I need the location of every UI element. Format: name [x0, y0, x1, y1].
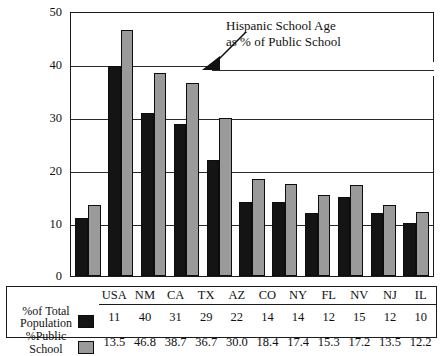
bar-nj-series1 [371, 213, 384, 276]
bar-nm-series1 [108, 66, 121, 276]
table-header-ny: NY [283, 287, 314, 305]
legend-swatch-public-school [78, 341, 94, 354]
y-tick-30: 30 [28, 112, 62, 124]
cell-total-population-nj: 12 [375, 305, 406, 331]
bar-ca-series2 [154, 73, 167, 276]
bar-group-ny [268, 14, 301, 276]
y-tick-20: 20 [28, 165, 62, 177]
table-header-fl: FL [313, 287, 344, 305]
table-header-nm: NM [130, 287, 161, 305]
y-tick-10: 10 [28, 218, 62, 230]
table-row-total-population: %of TotalPopulation 11403129221414121512… [7, 305, 436, 331]
cell-total-population-co: 14 [252, 305, 283, 331]
cell-total-population-ny: 14 [283, 305, 314, 331]
bar-fl-series1 [305, 213, 318, 276]
bar-nv-series2 [350, 185, 363, 275]
y-tick-40: 40 [28, 59, 62, 71]
bar-fl-series2 [318, 195, 331, 275]
cell-public-school-nm: 46.8 [130, 330, 161, 356]
table-header-nv: NV [344, 287, 375, 305]
bar-group-nm [104, 14, 137, 276]
bar-nj-series2 [383, 205, 396, 276]
bar-tx-series2 [186, 83, 199, 275]
table-header-nj: NJ [375, 287, 406, 305]
cell-total-population-usa: 11 [99, 305, 130, 331]
y-tick-50: 50 [28, 6, 62, 18]
bar-group-nv [334, 14, 367, 276]
legend-swatch-total-population [78, 315, 94, 328]
bar-ca-series1 [141, 113, 154, 275]
values-table: USANMCATXAZCONYFLNVNJIL %of TotalPopulat… [7, 287, 436, 356]
cell-public-school-fl: 15.3 [313, 330, 344, 356]
cell-total-population-il: 10 [405, 305, 436, 331]
bar-group-nj [367, 14, 400, 276]
bar-usa-series2 [88, 205, 101, 276]
cell-public-school-tx: 36.7 [191, 330, 222, 356]
data-legend-table: USANMCATXAZCONYFLNVNJIL %of TotalPopulat… [6, 286, 437, 338]
bar-tx-series1 [174, 124, 187, 276]
annotation-arrow-icon [196, 30, 260, 76]
legend-row-label-public-school: %PublicSchool [7, 330, 99, 356]
bar-usa-series1 [75, 218, 88, 276]
legend-row-label-total-population: %of TotalPopulation [7, 305, 99, 331]
bar-ny-series2 [285, 184, 298, 275]
table-header-row: USANMCATXAZCONYFLNVNJIL [7, 287, 436, 305]
table-header-il: IL [405, 287, 436, 305]
bar-co-series2 [252, 179, 265, 275]
bar-group-ca [137, 14, 170, 276]
table-corner-cell [7, 287, 99, 305]
cell-public-school-ca: 38.7 [160, 330, 191, 356]
bar-group-usa [72, 14, 105, 276]
bar-group-il [400, 14, 433, 276]
cell-public-school-usa: 13.5 [99, 330, 130, 356]
bar-ny-series1 [272, 202, 285, 275]
cell-public-school-ny: 17.4 [283, 330, 314, 356]
cell-public-school-az: 30.0 [222, 330, 253, 356]
bar-il-series1 [403, 223, 416, 275]
cell-total-population-fl: 12 [313, 305, 344, 331]
cell-total-population-nv: 15 [344, 305, 375, 331]
cell-total-population-ca: 31 [160, 305, 191, 331]
cell-public-school-nj: 13.5 [375, 330, 406, 356]
cell-public-school-co: 18.4 [252, 330, 283, 356]
legend-label-public-school: %PublicSchool [16, 330, 76, 355]
y-tick-0: 0 [28, 270, 62, 282]
bar-az-series2 [219, 118, 232, 275]
cell-total-population-tx: 29 [191, 305, 222, 331]
bar-nv-series1 [338, 197, 351, 276]
cell-public-school-nv: 17.2 [344, 330, 375, 356]
table-row-public-school: %PublicSchool 13.546.838.736.730.018.417… [7, 330, 436, 356]
legend-label-total-population: %of TotalPopulation [16, 305, 76, 330]
table-header-co: CO [252, 287, 283, 305]
bar-il-series2 [416, 212, 429, 276]
table-header-az: AZ [222, 287, 253, 305]
bar-group-fl [301, 14, 334, 276]
cell-total-population-az: 22 [222, 305, 253, 331]
cell-public-school-il: 12.2 [405, 330, 436, 356]
table-header-tx: TX [191, 287, 222, 305]
bar-co-series1 [239, 202, 252, 275]
table-header-ca: CA [160, 287, 191, 305]
cell-total-population-nm: 40 [130, 305, 161, 331]
table-header-usa: USA [99, 287, 130, 305]
bar-az-series1 [207, 160, 220, 275]
bar-nm-series2 [121, 30, 134, 275]
